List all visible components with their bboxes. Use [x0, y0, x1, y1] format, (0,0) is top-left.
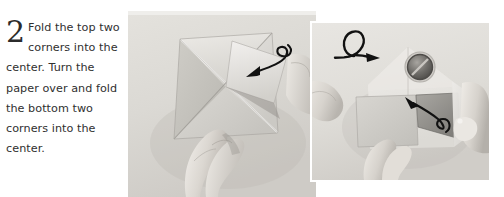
instruction-block: 2 Fold the top two corners into the cent… [6, 16, 128, 157]
origami-step-photo-inset [310, 21, 491, 182]
origami-step-photo-main [128, 11, 316, 197]
step-number: 2 [6, 18, 25, 46]
instruction-page: 2 Fold the top two corners into the cent… [0, 0, 504, 197]
photo-inset-image [312, 23, 489, 180]
photo-main-image [128, 11, 316, 197]
